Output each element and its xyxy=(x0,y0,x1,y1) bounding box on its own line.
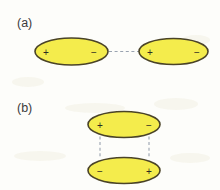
dipole-a-left: + − xyxy=(35,38,108,65)
charge-positive: + xyxy=(146,166,152,177)
charge-negative: − xyxy=(97,166,103,177)
figure-canvas: (a) + − + − (b) + − xyxy=(0,0,220,190)
panel-a: (a) + − + − xyxy=(17,16,208,65)
dipole-b-top: + − xyxy=(88,112,160,138)
charge-negative: − xyxy=(194,47,200,58)
dipole-a-right: + − xyxy=(139,39,208,65)
dipole-b-bottom: − + xyxy=(88,158,160,184)
charge-positive: + xyxy=(147,47,153,58)
charge-positive: + xyxy=(97,120,103,131)
charge-positive: + xyxy=(43,47,49,58)
panel-b-label: (b) xyxy=(17,101,32,115)
panel-b: (b) + − − + xyxy=(17,101,160,184)
dipole-interaction-figure: (a) + − + − (b) + − xyxy=(0,0,220,190)
charge-negative: − xyxy=(91,47,97,58)
panel-a-label: (a) xyxy=(17,16,32,30)
charge-negative: − xyxy=(146,120,152,131)
